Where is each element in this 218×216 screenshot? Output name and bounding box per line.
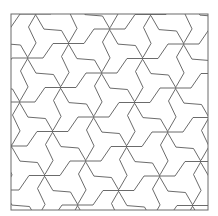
tile-edge: [160, 132, 168, 175]
tile-edge: [78, 161, 86, 204]
tile-edge: [94, 73, 102, 116]
tile-edge: [152, 176, 160, 215]
tile-edge: [209, 119, 218, 147]
tile-edge: [127, 103, 135, 146]
tile-edge: [143, 15, 151, 58]
tile-edge: [77, 1, 110, 29]
tile-edge: [102, 29, 110, 72]
tile-edge: [61, 89, 94, 117]
tile-edge: [45, 132, 53, 175]
tile-edge: [184, 45, 217, 73]
tile-edge: [135, 104, 168, 132]
tile-edge: [168, 133, 201, 161]
tile-edge: [36, 0, 77, 14]
tile-edge: [160, 177, 193, 205]
tile-edge: [12, 147, 45, 175]
tile-edge: [0, 162, 4, 190]
tile-edge: [118, 0, 151, 15]
tiling-diagram: [0, 0, 218, 215]
tile-edge: [201, 147, 218, 162]
tile-edge: [69, 0, 77, 42]
tile-edge: [3, 0, 36, 14]
tile-edge: [0, 0, 3, 27]
tile-edge: [69, 45, 102, 73]
tile-edge: [217, 59, 218, 74]
tile-edge: [86, 162, 119, 190]
tile-edge: [4, 176, 45, 191]
tile-edge: [209, 74, 217, 117]
tile-edge: [0, 118, 12, 146]
tile-edge: [36, 15, 69, 43]
tile-edge: [102, 74, 135, 102]
tile-edge: [168, 88, 176, 131]
tile-edge: [61, 44, 69, 87]
tile-edge: [45, 177, 78, 205]
tile-edge: [119, 147, 127, 190]
tile-edge: [201, 163, 218, 191]
tile-edge: [0, 102, 20, 117]
tile-edge: [151, 0, 192, 15]
tile-edge: [53, 133, 86, 161]
tile-edge: [0, 74, 20, 102]
tile-edge: [37, 176, 45, 216]
tile-edge: [110, 30, 143, 58]
tile-edge: [53, 88, 61, 131]
tile-edge: [78, 206, 111, 215]
tile-edge: [0, 190, 4, 215]
tile-edge: [119, 192, 152, 215]
tile-edge: [176, 44, 184, 87]
tile-edge: [217, 75, 218, 103]
tile-edge: [176, 89, 209, 117]
tripod-tiles: [0, 0, 218, 215]
tile-edge: [36, 0, 44, 13]
square-frame: [11, 14, 208, 210]
tile-edge: [111, 191, 119, 216]
tile-edge: [193, 162, 201, 205]
tile-edge: [86, 117, 94, 160]
tile-edge: [193, 207, 218, 215]
tile-edge: [184, 30, 218, 45]
tile-edge: [20, 103, 53, 131]
tile-edge: [192, 1, 218, 29]
tile-edge: [127, 148, 160, 176]
tile-edge: [135, 59, 143, 102]
tile-edge: [209, 103, 218, 118]
tile-edge: [184, 0, 192, 43]
tile-edge: [28, 14, 36, 57]
tile-edge: [12, 102, 20, 145]
tile-edge: [151, 0, 159, 13]
tile-edge: [151, 16, 184, 44]
tile-edge: [0, 146, 12, 161]
tile-edge: [217, 30, 218, 73]
tile-edge: [143, 60, 176, 88]
tile-edge: [20, 58, 28, 101]
tile-edge: [0, 14, 36, 29]
tile-edge: [94, 118, 127, 146]
tile-edge: [28, 59, 61, 87]
tile-edge: [0, 30, 28, 58]
tile-edge: [4, 191, 37, 215]
tile-edge: [0, 190, 4, 205]
